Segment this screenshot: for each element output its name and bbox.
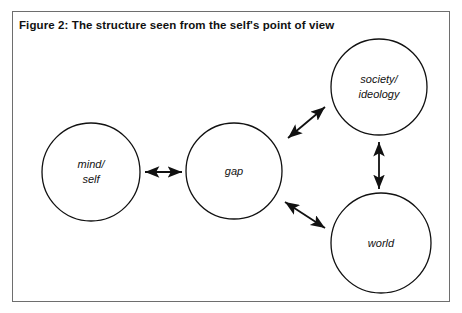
connector-gap-to-society-ideology [288, 107, 325, 138]
diagram-canvas [0, 0, 462, 313]
connector-gap-to-world [285, 202, 325, 228]
node-circle-gap [186, 123, 282, 219]
node-circle-society-ideology [331, 39, 427, 135]
node-circle-world [331, 193, 431, 293]
node-circle-mind-self [42, 123, 140, 221]
node-layer [42, 39, 431, 293]
